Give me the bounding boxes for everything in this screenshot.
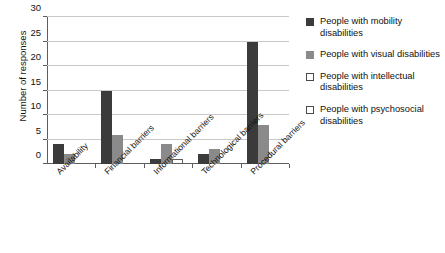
category-separator-tick — [144, 164, 145, 168]
y-axis-tick-label: 0 — [36, 150, 41, 160]
y-axis-tick-label: 25 — [30, 28, 41, 38]
legend-label: People with visual disabilities — [320, 49, 440, 61]
y-axis-tick-label: 20 — [30, 52, 41, 62]
legend-item: People with psychosocial disabilities — [306, 104, 444, 127]
legend-label: People with psychosocial disabilities — [320, 104, 444, 127]
legend-swatch — [306, 106, 314, 114]
y-axis-tick-label: 10 — [30, 101, 41, 111]
legend-swatch — [306, 73, 314, 81]
bar-group — [47, 17, 95, 164]
bar — [101, 91, 112, 165]
y-axis-tick-label: 15 — [30, 77, 41, 87]
chart-legend: People with mobility disabilitiesPeople … — [306, 16, 444, 137]
legend-swatch — [306, 18, 314, 26]
chart-container: Number of responses 051015202530 Availab… — [0, 0, 445, 253]
category-separator-tick — [289, 164, 290, 168]
legend-swatch — [306, 51, 314, 59]
y-axis-title: Number of responses — [16, 6, 30, 146]
category-separator-tick — [192, 164, 193, 168]
legend-item: People with mobility disabilities — [306, 16, 444, 39]
legend-item: People with intellectual disabilities — [306, 71, 444, 94]
legend-label: People with intellectual disabilities — [320, 71, 444, 94]
y-axis-tick-label: 30 — [30, 3, 41, 13]
category-separator-tick — [95, 164, 96, 168]
legend-label: People with mobility disabilities — [320, 16, 444, 39]
y-axis-tick-label: 5 — [36, 126, 41, 136]
bar — [247, 42, 258, 165]
legend-item: People with visual disabilities — [306, 49, 444, 61]
category-separator-tick — [241, 164, 242, 168]
